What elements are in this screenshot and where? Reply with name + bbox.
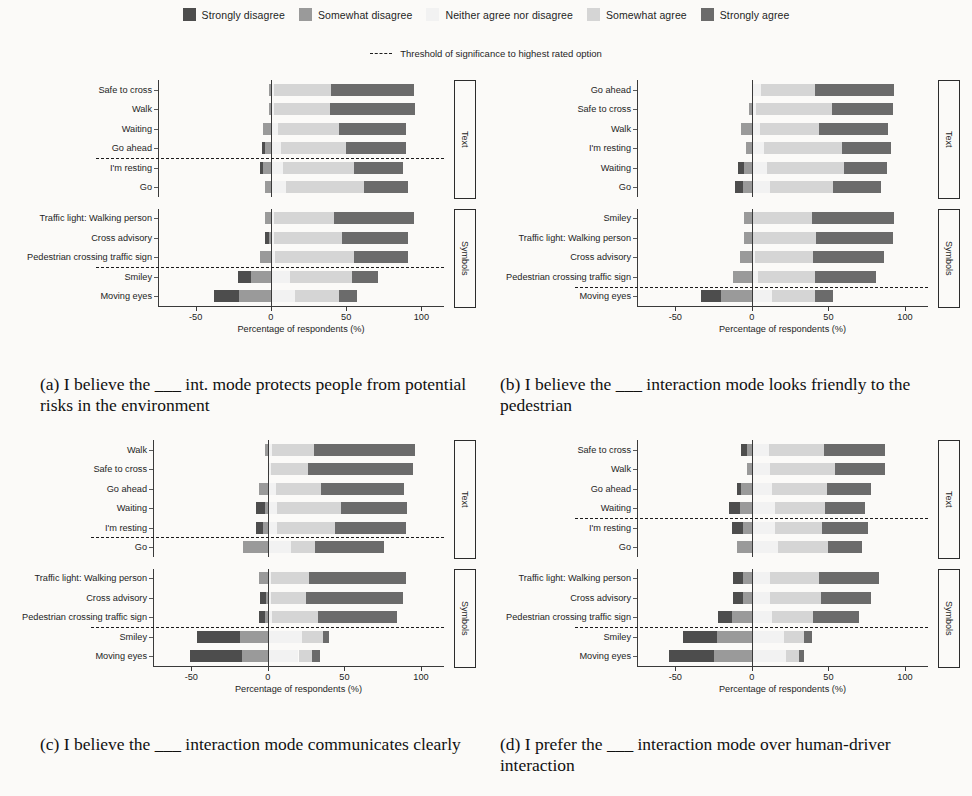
bar-row	[8, 271, 486, 283]
bar-segment	[335, 522, 405, 534]
bar-segment	[741, 483, 752, 495]
x-axis-title: Percentage of respondents (%)	[158, 324, 444, 334]
bar-segment	[735, 181, 743, 193]
bar-segment	[256, 502, 265, 514]
bar-segment	[743, 181, 752, 193]
bar-row	[492, 232, 970, 244]
bar-segment	[331, 84, 414, 96]
y-axis-spine	[153, 440, 154, 557]
bar-segment	[341, 502, 407, 514]
x-axis-tick-label: 0	[749, 672, 754, 682]
bar-segment	[733, 572, 742, 584]
bar-segment	[299, 650, 313, 662]
x-axis-tick	[675, 307, 676, 311]
bar-segment	[309, 572, 405, 584]
dashed-line-icon	[370, 53, 392, 54]
bar-segment	[827, 483, 871, 495]
x-axis-tick-label: 50	[823, 672, 833, 682]
bar-row	[492, 650, 970, 662]
bar-row	[8, 84, 486, 96]
bar-segment	[271, 572, 309, 584]
zero-reference-line	[752, 209, 753, 306]
bar-row	[492, 290, 970, 302]
y-axis-spine	[637, 440, 638, 557]
x-axis-tick-label: 100	[414, 312, 429, 322]
bar-segment	[295, 290, 339, 302]
legend-swatch-icon	[587, 8, 600, 21]
legend-label: Somewhat disagree	[318, 9, 413, 21]
zero-reference-line	[268, 569, 269, 666]
subplot-b: TextGo aheadSafe to crossWalkI'm resting…	[492, 78, 970, 378]
bar-row	[8, 483, 486, 495]
bar-segment	[770, 463, 834, 475]
bar-row	[492, 84, 970, 96]
x-axis-tick	[344, 667, 345, 671]
bar-segment	[753, 212, 811, 224]
x-axis-tick-label: -50	[669, 672, 682, 682]
significance-threshold-line	[96, 267, 444, 268]
bar-segment	[756, 103, 831, 115]
bar-segment	[770, 181, 833, 193]
x-axis-tick	[271, 307, 272, 311]
x-axis-tick	[828, 307, 829, 311]
legend-item: Strongly disagree	[183, 8, 285, 21]
bar-segment	[276, 483, 322, 495]
bar-segment	[683, 631, 717, 643]
x-axis-title: Percentage of respondents (%)	[153, 684, 444, 694]
bar-segment	[755, 251, 813, 263]
bar-segment	[844, 162, 887, 174]
bar-segment	[259, 483, 268, 495]
plot-area-d: TextSafe to crossWalkGo aheadWaitingI'm …	[492, 438, 970, 696]
bar-row	[8, 232, 486, 244]
subplot-d: TextSafe to crossWalkGo aheadWaitingI'm …	[492, 438, 970, 738]
bar-row	[8, 502, 486, 514]
bar-segment	[752, 541, 778, 553]
bar-segment	[752, 592, 770, 604]
bar-row	[492, 271, 970, 283]
x-axis-tick-label: 50	[339, 672, 349, 682]
bar-segment	[769, 444, 824, 456]
x-axis-tick-label: 50	[823, 312, 833, 322]
bar-segment	[732, 611, 752, 623]
bar-segment	[268, 541, 291, 553]
bar-segment	[308, 463, 414, 475]
x-axis-tick	[828, 667, 829, 671]
x-axis-tick	[268, 667, 269, 671]
bar-row	[492, 251, 970, 263]
bar-row	[492, 142, 970, 154]
x-axis-tick-label: 0	[265, 672, 270, 682]
legend-item: Strongly agree	[701, 8, 790, 21]
bar-segment	[758, 271, 815, 283]
x-axis-tick	[346, 307, 347, 311]
subplot-c: TextWalkSafe to crossGo aheadWaitingI'm …	[8, 438, 486, 738]
bar-segment	[274, 84, 331, 96]
x-axis-tick-label: 100	[413, 672, 428, 682]
bar-segment	[268, 631, 302, 643]
bar-segment	[819, 123, 888, 135]
bar-row	[8, 541, 486, 553]
bar-segment	[271, 181, 286, 193]
x-axis-tick	[752, 307, 753, 311]
bar-segment	[275, 251, 353, 263]
bar-segment	[812, 212, 895, 224]
x-axis-tick	[675, 667, 676, 671]
x-axis-tick	[905, 307, 906, 311]
bar-segment	[813, 611, 859, 623]
bar-segment	[315, 541, 384, 553]
bar-row	[492, 103, 970, 115]
bar-row	[492, 483, 970, 495]
bar-segment	[277, 502, 341, 514]
bar-segment	[822, 522, 868, 534]
bar-segment	[804, 631, 812, 643]
bar-segment	[272, 611, 318, 623]
bar-segment	[815, 290, 833, 302]
plot-area-a: TextSafe to crossWalkWaitingGo aheadI'm …	[8, 78, 486, 336]
legend-label: Strongly disagree	[202, 9, 285, 21]
zero-reference-line	[752, 569, 753, 666]
zero-reference-line	[271, 209, 272, 306]
bar-segment	[761, 84, 815, 96]
bar-segment	[733, 271, 751, 283]
bar-segment	[772, 611, 813, 623]
bar-segment	[752, 502, 775, 514]
bar-segment	[729, 502, 740, 514]
